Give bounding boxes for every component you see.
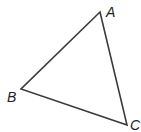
vertex-label-a: A	[105, 4, 115, 20]
triangle-abc	[21, 12, 127, 125]
triangle-diagram: A B C	[0, 0, 141, 132]
vertex-label-c: C	[130, 117, 141, 132]
vertex-label-b: B	[7, 89, 16, 105]
